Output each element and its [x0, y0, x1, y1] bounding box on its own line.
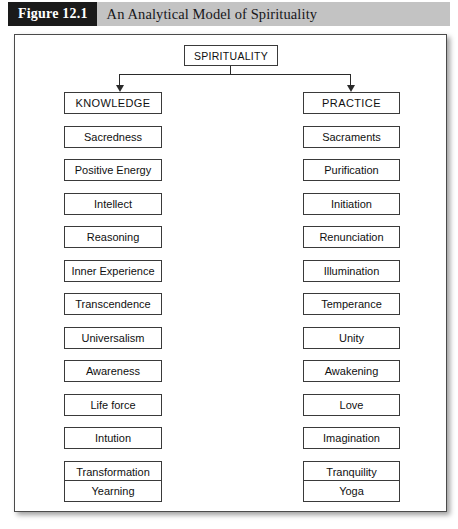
node-knowledge-item: Universalism — [64, 327, 162, 349]
node-practice-item: Sacraments — [303, 126, 400, 148]
node-practice-item: Love — [303, 394, 400, 416]
node-knowledge-item: Sacredness — [64, 126, 162, 148]
connector-drop-knowledge — [119, 74, 120, 86]
node-knowledge-item: Positive Energy — [64, 159, 162, 181]
connector-horizontal-bus — [119, 74, 351, 75]
node-practice-item: Initiation — [303, 193, 400, 215]
node-knowledge-item: Transcendence — [64, 293, 162, 315]
connector-drop-practice — [350, 74, 351, 86]
arrowhead-knowledge-icon — [116, 85, 124, 92]
node-knowledge-item: Intellect — [64, 193, 162, 215]
node-knowledge-item: Reasoning — [64, 226, 162, 248]
node-knowledge-item: Intution — [64, 427, 162, 449]
figure-number-label: Figure 12.1 — [8, 2, 97, 26]
node-spirituality: SPIRITUALITY — [184, 45, 278, 66]
node-practice-item: Purification — [303, 159, 400, 181]
node-practice-item: Yoga — [303, 480, 400, 502]
node-knowledge-item: Awareness — [64, 360, 162, 382]
node-knowledge-item: Inner Experience — [64, 260, 162, 282]
node-practice-item: Illumination — [303, 260, 400, 282]
arrowhead-practice-icon — [347, 85, 355, 92]
node-practice-item: Awakening — [303, 360, 400, 382]
node-practice-head: PRACTICE — [303, 92, 400, 114]
node-knowledge-item: Life force — [64, 394, 162, 416]
node-practice-item: Imagination — [303, 427, 400, 449]
node-practice-item: Unity — [303, 327, 400, 349]
figure-title: An Analytical Model of Spirituality — [97, 2, 318, 26]
node-knowledge-item: Yearning — [64, 480, 162, 502]
node-practice-item: Temperance — [303, 293, 400, 315]
node-practice-item: Renunciation — [303, 226, 400, 248]
node-knowledge-head: KNOWLEDGE — [64, 92, 162, 114]
diagram-frame: SPIRITUALITY KNOWLEDGE Sacredness Positi… — [14, 34, 447, 512]
figure-header: Figure 12.1 An Analytical Model of Spiri… — [8, 2, 450, 26]
